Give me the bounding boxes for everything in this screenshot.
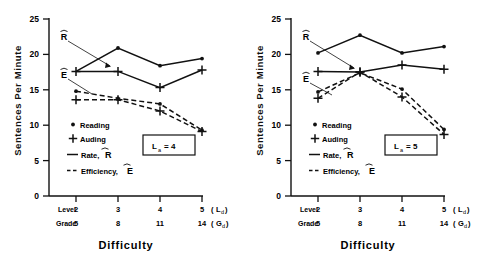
- condition-box-left: L a = 4: [143, 135, 195, 155]
- x-grade-unit-close-right: ): [468, 219, 471, 228]
- legend-label-efficiency-left: Efficiency,: [81, 167, 118, 176]
- x-grade-1-right: 5: [316, 219, 320, 228]
- plot-svg-right: 0 5 10 15 20 25: [242, 0, 485, 257]
- legend-label-rate-right: Rate,: [323, 151, 341, 160]
- y-tick-labels-right: 0 5 10 15 20 25: [272, 14, 282, 201]
- legend-label-rate-left: Rate,: [81, 151, 99, 160]
- label-efficiency-right: E: [303, 74, 309, 84]
- legend-right: Reading Auding Rate, R Efficiency, E: [309, 121, 375, 176]
- legend-symbol-efficiency-right: E: [369, 166, 375, 176]
- axes-left: [43, 18, 203, 202]
- x-level-4-left: 5: [200, 205, 204, 214]
- y-tick-10: 10: [30, 120, 40, 130]
- y-tick-0: 0: [34, 191, 39, 201]
- axes-right: [285, 18, 445, 202]
- legend-symbol-efficiency-left: E: [127, 166, 133, 176]
- x-grade-4-left: 14: [198, 219, 207, 228]
- x-grade-3-right: 11: [398, 219, 406, 228]
- condition-box-value-left: = 4: [164, 142, 176, 151]
- x-level-4-right: 5: [442, 205, 446, 214]
- x-grade-unit-close-left: ): [226, 219, 229, 228]
- y-tick-5: 5: [34, 156, 39, 166]
- x-axis-title-right: Difficulty: [340, 239, 395, 251]
- chart-panel-la-5: Sentences Per Minute: [242, 0, 485, 257]
- y-tick-15-right: 15: [272, 85, 282, 95]
- x-level-unit-sub-right: d: [463, 209, 466, 215]
- x-level-3-left: 4: [158, 205, 163, 214]
- condition-box-sub-left: a: [158, 147, 162, 153]
- y-tick-15: 15: [30, 85, 40, 95]
- x-level-3-right: 4: [400, 205, 405, 214]
- x-level-unit-sub-left: d: [221, 209, 224, 215]
- figure-two-panel-chart: Sentences Per Minute: [0, 0, 485, 257]
- series-auding-rate-right: [318, 65, 444, 72]
- x-grade-1-left: 5: [74, 219, 78, 228]
- legend-marker-reading-left: [71, 123, 75, 127]
- x-axis-rows-left: Level 2 3 4 5 ( L d ) Grade 5 8 11 14 ( …: [56, 205, 229, 229]
- x-level-unit-open-right: (: [453, 205, 456, 214]
- x-grade-unit-sub-right: d: [464, 223, 467, 229]
- condition-box-var-right: L: [394, 142, 399, 151]
- y-tick-20-right: 20: [272, 49, 282, 59]
- x-grade-3-left: 11: [156, 219, 164, 228]
- y-tick-5-right: 5: [276, 156, 281, 166]
- series-reading-rate-left: [76, 48, 202, 71]
- x-level-unit-close-right: ): [467, 205, 470, 214]
- x-axis-title-left: Difficulty: [98, 239, 153, 251]
- x-level-unit-close-left: ): [225, 205, 228, 214]
- legend-marker-auding-right: [311, 134, 319, 142]
- condition-box-value-right: = 5: [406, 142, 418, 151]
- x-level-1-right: 2: [316, 205, 320, 214]
- x-grade-unit-open-left: (: [211, 219, 214, 228]
- series-reading-rate-right: [318, 35, 444, 53]
- x-grade-unit-sub-left: d: [222, 223, 225, 229]
- x-level-2-right: 3: [358, 205, 362, 214]
- label-rate-left: R: [61, 32, 68, 42]
- x-level-unit-open-left: (: [211, 205, 214, 214]
- legend-symbol-rate-right: R: [347, 150, 354, 160]
- curve-callouts-left: R E: [61, 30, 112, 94]
- legend-label-reading-right: Reading: [322, 121, 352, 130]
- condition-box-sub-right: a: [400, 147, 404, 153]
- legend-left: Reading Auding Rate, R Efficiency, E: [67, 121, 133, 176]
- x-axis-rows-right: Level 2 3 4 5 ( L d ) Grade 5 8 11 14 ( …: [298, 205, 471, 229]
- condition-box-right: L a = 5: [385, 135, 437, 155]
- y-tick-25: 25: [30, 14, 40, 24]
- label-rate-right: R: [303, 32, 310, 42]
- legend-label-efficiency-right: Efficiency,: [323, 167, 360, 176]
- condition-box-var-left: L: [152, 142, 157, 151]
- y-tick-25-right: 25: [272, 14, 282, 24]
- y-tick-0-right: 0: [276, 191, 281, 201]
- chart-panel-la-4: Sentences Per Minute: [0, 0, 242, 257]
- x-level-1-left: 2: [74, 205, 78, 214]
- y-tick-20: 20: [30, 49, 40, 59]
- legend-label-auding-right: Auding: [322, 135, 348, 144]
- legend-label-auding-left: Auding: [80, 135, 106, 144]
- y-tick-labels-left: 0 5 10 15 20 25: [30, 14, 40, 201]
- x-grade-2-left: 8: [116, 219, 120, 228]
- legend-symbol-rate-left: R: [105, 150, 112, 160]
- x-grade-4-right: 14: [440, 219, 449, 228]
- legend-marker-auding-left: [69, 134, 77, 142]
- label-efficiency-left: E: [61, 70, 67, 80]
- markers-reading-right: [316, 33, 446, 131]
- series-auding-rate-left: [76, 70, 202, 88]
- x-grade-unit-open-right: (: [453, 219, 456, 228]
- legend-marker-reading-right: [313, 123, 317, 127]
- x-grade-2-right: 8: [358, 219, 362, 228]
- plot-svg-left: 0 5 10 15 20 25: [0, 0, 242, 257]
- y-tick-10-right: 10: [272, 120, 282, 130]
- x-level-2-left: 3: [116, 205, 120, 214]
- legend-label-reading-left: Reading: [80, 121, 110, 130]
